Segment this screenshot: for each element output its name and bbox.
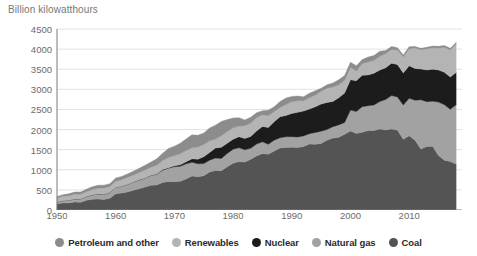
chart-axis-title: Billion kilowatthours xyxy=(8,4,98,15)
x-tick-label: 2000 xyxy=(340,210,361,221)
plot-area xyxy=(0,22,477,210)
chart-legend: Petroleum and otherRenewablesNuclearNatu… xyxy=(0,231,477,253)
legend-item-nuclear[interactable]: Nuclear xyxy=(252,237,299,248)
x-tick-label: 1950 xyxy=(46,210,67,221)
legend-label: Petroleum and other xyxy=(68,237,158,248)
legend-swatch-icon xyxy=(389,238,398,247)
legend-swatch-icon xyxy=(55,238,64,247)
legend-swatch-icon xyxy=(252,238,261,247)
x-tick-label: 1970 xyxy=(164,210,185,221)
legend-item-petroleum[interactable]: Petroleum and other xyxy=(55,237,158,248)
x-axis-tick-labels: 1950196019701980199020002010 xyxy=(0,210,477,226)
x-tick-label: 2010 xyxy=(399,210,420,221)
x-tick-label: 1960 xyxy=(105,210,126,221)
legend-label: Renewables xyxy=(185,237,239,248)
legend-label: Nuclear xyxy=(265,237,299,248)
legend-swatch-icon xyxy=(172,238,181,247)
stacked-area-chart xyxy=(0,22,477,210)
legend-item-coal[interactable]: Coal xyxy=(389,237,422,248)
legend-label: Coal xyxy=(402,237,422,248)
x-tick-label: 1980 xyxy=(223,210,244,221)
legend-item-natural_gas[interactable]: Natural gas xyxy=(312,237,376,248)
legend-swatch-icon xyxy=(312,238,321,247)
legend-item-renewables[interactable]: Renewables xyxy=(172,237,239,248)
x-tick-label: 1990 xyxy=(281,210,302,221)
legend-label: Natural gas xyxy=(325,237,376,248)
chart-container: Billion kilowatthours 050010001500200025… xyxy=(0,0,477,256)
